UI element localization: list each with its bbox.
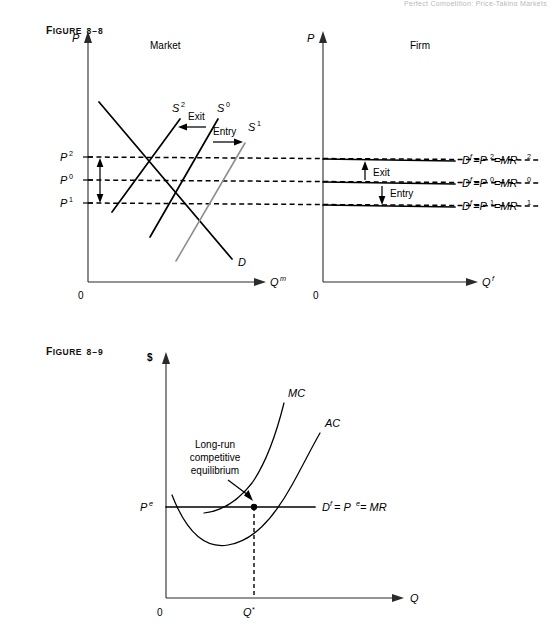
running-head: Perfect Competition: Price-Taking Market… [404, 0, 547, 6]
svg-text:D: D [462, 154, 470, 166]
svg-text:= P: = P [334, 501, 351, 513]
fig89-quantity-label: Q [243, 606, 252, 618]
svg-text:competitive: competitive [190, 452, 241, 463]
market-price-label-p2-sup: 2 [69, 149, 73, 158]
svg-text:=P: =P [473, 200, 487, 212]
market-x-axis-label-sup: m [280, 274, 286, 283]
fig89-marginal-cost-label: MC [288, 387, 305, 399]
market-supply-label-s1-sup: 1 [257, 119, 261, 128]
market-exit-arrowhead [178, 124, 187, 131]
firm-x-axis-label-sup: f [492, 274, 495, 283]
market-supply-label-s0-sup: 0 [226, 100, 230, 109]
firm-demand-label-mr0: D f =P 0 =MR 0 [462, 175, 531, 189]
firm-panel: Firm P Q f 0 D f =P 2 =MR 2 D [307, 31, 531, 301]
firm-entry-arrowhead [379, 196, 386, 205]
firm-y-axis-label: P [307, 32, 315, 44]
firm-entry-label: Entry [390, 188, 413, 199]
market-supply-curve-s1 [176, 143, 245, 261]
market-entry-label: Entry [213, 126, 236, 137]
fig89-annotation-arrow-shaft [228, 480, 248, 495]
figure-page: Perfect Competition: Price-Taking Market… [0, 0, 553, 635]
market-price-label-p2: P [60, 151, 68, 163]
fig89-y-axis-label: $ [147, 352, 153, 363]
fig89-price-label-sup: e [149, 499, 153, 508]
firm-y-axis-arrowhead [319, 31, 327, 43]
svg-text:f: f [330, 499, 333, 508]
firm-origin-label: 0 [313, 290, 319, 301]
market-x-axis-label: Q [270, 276, 279, 288]
market-origin-label: 0 [78, 290, 84, 301]
fig89-price-label: P [140, 501, 148, 513]
svg-text:=MR: =MR [494, 177, 518, 189]
fig89-x-axis-label: Q [410, 592, 419, 604]
firm-demand-label-mr2: D f =P 2 =MR 2 [462, 152, 531, 166]
market-supply-label-s2: S [172, 102, 180, 114]
market-price-label-p1-sup: 1 [69, 195, 73, 204]
svg-text:2: 2 [527, 152, 531, 161]
market-demand-label: D [238, 256, 246, 268]
market-exit-label: Exit [188, 111, 205, 122]
svg-text:=MR: =MR [494, 154, 518, 166]
market-supply-label-s1: S [248, 121, 256, 133]
svg-text:equilibrium: equilibrium [191, 465, 239, 476]
firm-x-axis-label: Q [482, 276, 491, 288]
svg-text:1: 1 [527, 198, 531, 207]
figure-8-8-graphic: Market P Q m 0 P 2 P 0 P 1 [0, 14, 553, 314]
market-x-axis-arrowhead [254, 278, 266, 286]
firm-exit-label: Exit [373, 167, 390, 178]
svg-text:0: 0 [527, 175, 531, 184]
svg-text:=P: =P [473, 177, 487, 189]
figure-8-9-graphic: $ Q 0 P e Q * D f = P e = MR AC MC [0, 335, 553, 635]
firm-exit-arrowhead [362, 161, 369, 170]
market-entry-arrowhead [234, 139, 243, 146]
price-range-arrowhead-up [97, 158, 104, 167]
svg-text:D: D [462, 177, 470, 189]
fig89-demand-mr-label: D f = P e = MR [322, 499, 387, 513]
svg-text:=MR: =MR [494, 200, 518, 212]
market-y-axis-label: P [72, 32, 80, 44]
svg-text:= MR: = MR [360, 501, 387, 513]
firm-demand-label-mr1: D f =P 1 =MR 1 [462, 198, 531, 212]
market-supply-label-s0: S [217, 102, 225, 114]
firm-x-axis-arrowhead [466, 278, 478, 286]
fig89-equilibrium-annotation: Long-run competitive equilibrium [190, 439, 241, 476]
fig89-quantity-label-sup: * [252, 605, 255, 614]
svg-text:D: D [322, 501, 330, 513]
fig89-x-axis-arrowhead [392, 594, 404, 602]
firm-panel-title: Firm [410, 40, 430, 51]
market-y-axis-arrowhead [84, 31, 92, 43]
fig89-y-axis-arrowhead [162, 352, 170, 364]
svg-text:=P: =P [473, 154, 487, 166]
svg-text:D: D [462, 200, 470, 212]
market-panel-title: Market [150, 40, 181, 51]
market-price-label-p1: P [60, 197, 68, 209]
market-price-label-p0-sup: 0 [69, 172, 73, 181]
market-supply-curve-s0 [150, 119, 218, 237]
fig89-average-cost-label: AC [324, 417, 340, 429]
market-supply-label-s2-sup: 2 [181, 100, 185, 109]
price-range-arrowhead-down [97, 194, 104, 203]
fig89-origin-label: 0 [157, 607, 163, 618]
market-price-label-p0: P [60, 174, 68, 186]
market-supply-curve-s2 [112, 119, 180, 212]
market-panel: Market P Q m 0 P 2 P 0 P 1 [60, 31, 540, 301]
svg-text:Long-run: Long-run [195, 439, 235, 450]
